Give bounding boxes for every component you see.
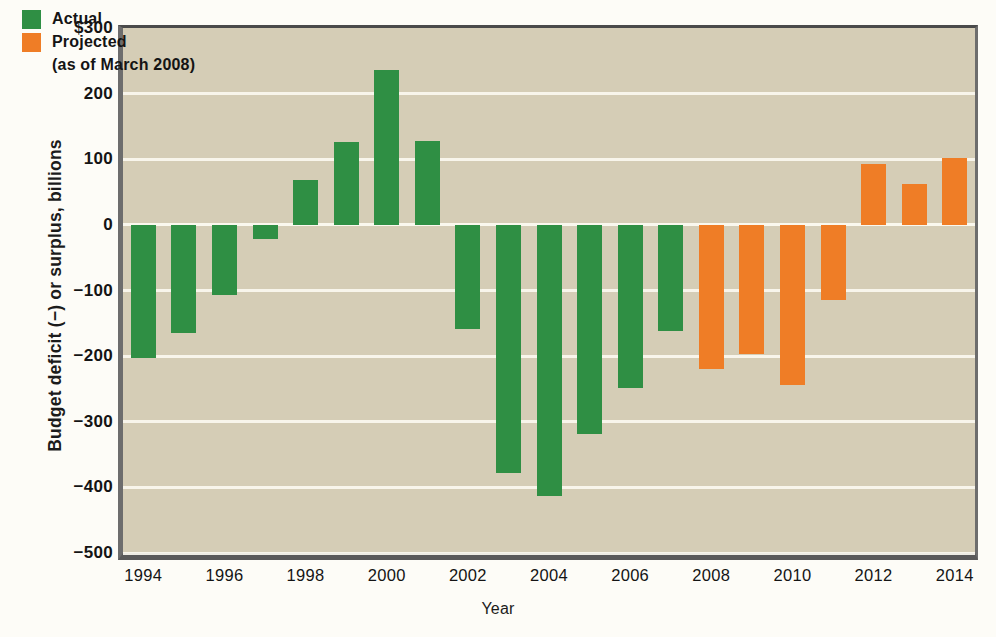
- x-axis-tick-label: 2014: [920, 566, 990, 585]
- bar-1997: [253, 225, 278, 239]
- x-axis-tick-label: 2006: [595, 566, 665, 585]
- bar-2010: [780, 225, 805, 385]
- y-axis-tick-label: −300: [13, 412, 113, 432]
- x-axis-title: Year: [0, 600, 996, 618]
- legend-label-actual: Actual: [52, 8, 102, 29]
- y-axis-tick-label: −500: [13, 543, 113, 563]
- bar-2003: [496, 225, 521, 473]
- plot-inner: [123, 28, 975, 553]
- bar-2002: [455, 225, 480, 329]
- y-axis-tick-label: −200: [13, 346, 113, 366]
- bar-2008: [699, 225, 724, 369]
- bar-2000: [374, 70, 399, 225]
- legend-item-actual: Actual: [22, 8, 195, 29]
- bar-2013: [902, 184, 927, 225]
- legend-swatch-actual: [22, 10, 41, 29]
- bar-1999: [334, 142, 359, 225]
- bar-1996: [212, 225, 237, 295]
- plot-area: [118, 25, 978, 560]
- bar-2004: [537, 225, 562, 496]
- y-axis-tick-label: −400: [13, 477, 113, 497]
- bar-2012: [861, 164, 886, 225]
- bar-2001: [415, 141, 440, 225]
- y-axis-tick-label: 100: [13, 149, 113, 169]
- x-axis-tick-label: 2012: [839, 566, 909, 585]
- bar-2009: [739, 225, 764, 354]
- legend-label-projected: Projected: [52, 31, 127, 52]
- legend-sublabel-projected: (as of March 2008): [52, 54, 195, 75]
- x-axis-tick-label: 2002: [433, 566, 503, 585]
- bar-1998: [293, 180, 318, 225]
- x-axis-tick-label: 2004: [514, 566, 584, 585]
- bar-2007: [658, 225, 683, 331]
- x-axis-tick-label: 1998: [271, 566, 341, 585]
- x-axis-tick-label: 2000: [352, 566, 422, 585]
- x-axis-tick-label: 2008: [676, 566, 746, 585]
- gridline: [123, 92, 975, 95]
- chart-legend: Actual Projected (as of March 2008): [22, 8, 195, 75]
- bar-1995: [171, 225, 196, 333]
- gridline: [123, 158, 975, 161]
- bar-1994: [131, 225, 156, 358]
- x-axis-tick-label: 2010: [757, 566, 827, 585]
- y-axis-tick-label: −100: [13, 281, 113, 301]
- legend-item-projected: Projected: [22, 31, 195, 52]
- y-axis-tick-label: 0: [13, 215, 113, 235]
- bar-2014: [942, 158, 967, 225]
- bar-2005: [577, 225, 602, 434]
- bar-2006: [618, 225, 643, 388]
- x-axis-tick-label: 1996: [189, 566, 259, 585]
- bar-2011: [821, 225, 846, 300]
- y-axis-tick-label: 200: [13, 84, 113, 104]
- chart-figure: Budget deficit (−) or surplus, billions …: [0, 0, 996, 637]
- gridline: [123, 552, 975, 555]
- legend-swatch-projected: [22, 33, 41, 52]
- x-axis-tick-label: 1994: [108, 566, 178, 585]
